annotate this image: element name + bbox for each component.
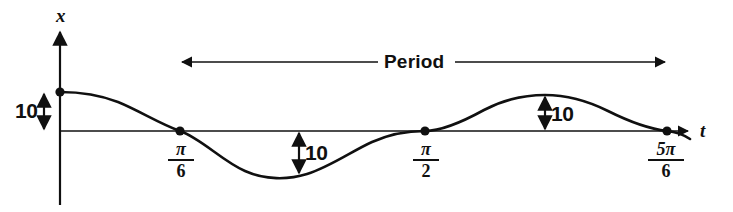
tick-denominator-pi-over-2: 2 [413, 162, 439, 180]
tick-numerator-pi-over-6: π [168, 140, 194, 158]
plot-canvas [0, 0, 733, 212]
vertical-axis-label: x [56, 6, 66, 25]
tick-label-pi-over-2: π 2 [413, 140, 439, 181]
horizontal-axis-label: t [700, 121, 705, 140]
zero-point-pi-over-6-marker [175, 126, 184, 135]
start-point-marker [55, 87, 64, 96]
amplitude-label-left: 10 [15, 100, 37, 121]
tick-label-five-pi-over-6: 5π 6 [648, 140, 684, 181]
period-label: Period [384, 52, 444, 71]
tick-numerator-five-pi-over-6: 5π [648, 140, 684, 158]
tick-denominator-pi-over-6: 6 [168, 162, 194, 180]
zero-point-five-pi-over-6-marker [662, 126, 671, 135]
tick-label-pi-over-6: π 6 [168, 140, 194, 181]
tick-denominator-five-pi-over-6: 6 [648, 162, 684, 180]
amplitude-label-peak: 10 [551, 103, 573, 124]
tick-numerator-pi-over-2: π [413, 140, 439, 158]
cosine-curve [60, 92, 690, 178]
zero-point-pi-over-2-marker [420, 126, 429, 135]
sinusoid-period-figure: x t Period 10 10 10 π 6 π 2 5π 6 [0, 0, 733, 212]
amplitude-label-trough: 10 [305, 142, 327, 163]
